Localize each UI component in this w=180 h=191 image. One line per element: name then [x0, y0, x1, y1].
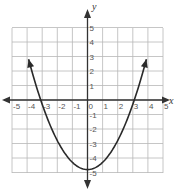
x-axis-left-arrow-icon	[2, 97, 10, 104]
y-tick-label: 4	[90, 38, 95, 47]
y-tick-label: -1	[90, 111, 98, 120]
x-tick-label: -1	[73, 102, 81, 111]
y-tick-label: -2	[90, 125, 98, 134]
y-tick-label: -3	[90, 140, 98, 149]
y-axis-down-arrow-icon	[84, 180, 91, 189]
y-tick-label: 2	[90, 67, 95, 76]
y-tick-label: 1	[90, 82, 95, 91]
y-tick-label: 3	[90, 53, 95, 62]
x-tick-label: 2	[119, 102, 124, 111]
x-tick-label: 1	[104, 102, 109, 111]
y-tick-label: 5	[90, 24, 95, 33]
x-tick-label: -2	[58, 102, 66, 111]
y-axis-label: y	[91, 1, 97, 12]
y-tick-label: -4	[90, 154, 98, 163]
x-tick-label: -4	[28, 102, 36, 111]
coordinate-plane: -5-4-3-2-101234554321-1-2-3-4-5 x y	[0, 0, 180, 191]
x-tick-label: 3	[134, 102, 139, 111]
y-axis-up-arrow-icon	[84, 9, 91, 18]
x-tick-label: 4	[149, 102, 154, 111]
x-axis-label: x	[168, 95, 174, 106]
x-tick-label: -5	[13, 102, 21, 111]
